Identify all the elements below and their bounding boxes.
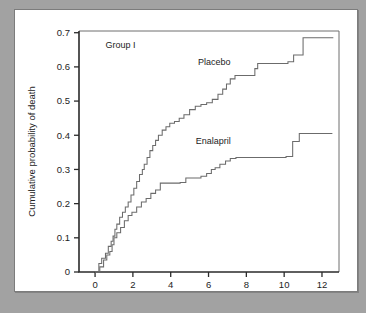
y-tick-label: 0.2 xyxy=(57,198,70,209)
y-tick-label: 0.3 xyxy=(57,164,70,175)
chart-panel: 00.10.20.30.40.50.60.7024681012Time, moC… xyxy=(14,9,358,292)
y-tick-label: 0.5 xyxy=(57,95,70,106)
group-label: Group I xyxy=(105,40,135,50)
y-tick-label: 0.6 xyxy=(57,61,70,72)
series-label-enalapril: Enalapril xyxy=(196,136,231,146)
x-tick-label: 0 xyxy=(92,279,97,290)
kaplan-meier-plot: 00.10.20.30.40.50.60.7024681012Time, moC… xyxy=(15,10,358,292)
y-axis-title: Cumulative probability of death xyxy=(26,86,37,216)
x-tick-label: 2 xyxy=(130,279,135,290)
y-tick-label: 0.4 xyxy=(57,130,70,141)
series-line-enalapril xyxy=(95,134,332,272)
x-tick-label: 6 xyxy=(206,279,211,290)
figure-root: 00.10.20.30.40.50.60.7024681012Time, moC… xyxy=(0,0,366,313)
x-tick-label: 4 xyxy=(168,279,173,290)
x-tick-label: 8 xyxy=(244,279,249,290)
x-tick-label: 10 xyxy=(279,279,290,290)
y-tick-label: 0 xyxy=(65,266,70,277)
series-line-placebo xyxy=(95,38,333,272)
y-tick-label: 0.7 xyxy=(57,27,70,38)
x-tick-label: 12 xyxy=(317,279,328,290)
series-label-placebo: Placebo xyxy=(198,57,231,67)
y-tick-label: 0.1 xyxy=(57,232,70,243)
